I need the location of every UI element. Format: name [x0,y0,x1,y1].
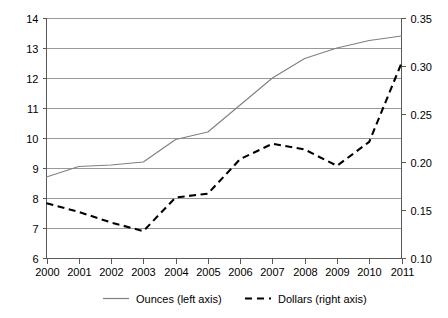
left-tick-label: 14 [26,13,38,25]
left-tick-label: 9 [32,163,38,175]
dual-axis-line-chart: 67891011121314 0.100.150.200.250.300.35 … [0,0,448,318]
chart-container: 67891011121314 0.100.150.200.250.300.35 … [0,0,448,318]
left-tick-label: 7 [32,223,38,235]
x-tick-label: 2001 [67,266,91,278]
legend-label-ounces: Ounces (left axis) [136,293,222,305]
x-tick-label: 2005 [196,266,220,278]
x-tick-label: 2007 [260,266,284,278]
right-tick-label: 0.10 [411,253,432,265]
x-tick-label: 2002 [99,266,123,278]
left-tick-label: 10 [26,133,38,145]
x-tick-label: 2000 [35,266,59,278]
left-tick-label: 8 [32,193,38,205]
right-tick-label: 0.25 [411,109,432,121]
x-tick-label: 2003 [131,266,155,278]
right-tick-label: 0.30 [411,61,432,73]
left-tick-label: 13 [26,43,38,55]
legend-label-dollars: Dollars (right axis) [278,293,367,305]
left-tick-label: 11 [27,103,38,115]
x-tick-label: 2010 [357,266,381,278]
x-tick-label: 2004 [164,266,188,278]
x-tick-label: 2011 [391,266,415,278]
left-tick-label: 6 [32,253,38,265]
x-tick-label: 2008 [293,266,317,278]
right-tick-label: 0.15 [411,205,432,217]
left-tick-label: 12 [26,73,38,85]
right-tick-label: 0.20 [411,157,432,169]
right-tick-label: 0.35 [411,13,432,25]
x-tick-label: 2009 [325,266,349,278]
x-tick-label: 2006 [228,266,252,278]
